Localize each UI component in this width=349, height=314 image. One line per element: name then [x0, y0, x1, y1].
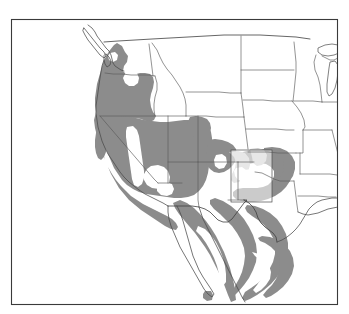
map-figure	[0, 0, 349, 314]
range-map-svg	[0, 0, 349, 314]
highlight-inset-box	[231, 150, 272, 202]
